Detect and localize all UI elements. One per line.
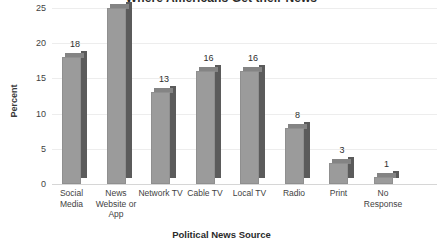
bar[interactable]: 13 — [151, 86, 177, 184]
x-axis-category-label: Print — [315, 188, 363, 199]
bar[interactable]: 16 — [240, 65, 266, 184]
bar-value-label: 16 — [192, 53, 226, 63]
bar-value-label: 3 — [325, 145, 359, 155]
y-axis-tick-label: 0 — [20, 180, 46, 189]
bar-value-label: 18 — [58, 39, 92, 49]
bar-front-face — [151, 92, 170, 184]
bar[interactable]: 16 — [196, 65, 222, 184]
bar[interactable]: 25 — [107, 2, 133, 184]
x-axis-category-label: News Website or App — [92, 188, 140, 220]
bar-front-face — [329, 163, 348, 184]
bar-side-face — [81, 51, 87, 178]
bar-value-label: 1 — [370, 159, 404, 169]
x-axis-category-label: Cable TV — [181, 188, 229, 199]
bar-value-label: 8 — [281, 110, 315, 120]
axis-baseline — [52, 184, 437, 185]
bar[interactable]: 3 — [329, 157, 355, 184]
bar-side-face — [304, 122, 310, 178]
x-axis-category-label: No Response — [359, 188, 407, 209]
bar-side-face — [126, 2, 132, 178]
bar-front-face — [285, 128, 304, 184]
bar[interactable]: 1 — [374, 171, 400, 184]
bar-front-face — [240, 71, 259, 184]
y-axis-tick-label: 10 — [20, 110, 46, 119]
bar[interactable]: 18 — [62, 51, 88, 184]
y-axis-tick-label: 20 — [20, 39, 46, 48]
x-axis-category-label: Local TV — [226, 188, 274, 199]
x-axis-category-labels: Social MediaNews Website or AppNetwork T… — [52, 188, 437, 230]
x-axis-title: Political News Source — [0, 229, 443, 240]
bar-front-face — [62, 57, 81, 184]
x-axis-category-label: Social Media — [48, 188, 96, 209]
y-axis-tick-label: 15 — [20, 74, 46, 83]
bar-front-face — [107, 8, 126, 184]
bar-front-face — [196, 71, 215, 184]
y-axis-tick-labels: 0510152025 — [18, 8, 46, 184]
plot-area: 1825131616831 — [52, 8, 437, 184]
y-axis-tick-label: 5 — [20, 145, 46, 154]
bar-side-face — [215, 65, 221, 178]
bar-side-face — [259, 65, 265, 178]
bar-chart: Where Americans Get their News Percent 0… — [0, 0, 443, 243]
chart-title: Where Americans Get their News — [0, 0, 443, 5]
bar-side-face — [170, 86, 176, 178]
y-axis-tick-label: 25 — [20, 4, 46, 13]
x-axis-category-label: Network TV — [137, 188, 185, 199]
x-axis-category-label: Radio — [270, 188, 318, 199]
bar-front-face — [374, 177, 393, 184]
bar[interactable]: 8 — [285, 122, 311, 184]
bar-value-label: 13 — [147, 74, 181, 84]
bar-value-label: 16 — [236, 53, 270, 63]
